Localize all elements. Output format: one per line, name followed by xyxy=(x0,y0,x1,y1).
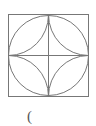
caption-label: ( xyxy=(27,108,32,124)
geometry-diagram xyxy=(0,0,96,126)
